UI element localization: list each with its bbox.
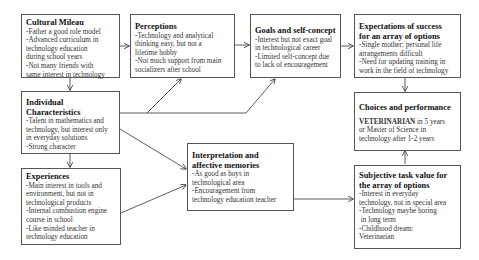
box-line: -Technology maybe boring (359, 207, 456, 216)
box-title: Subjective task value for (359, 171, 456, 181)
box-title: Characteristics (26, 108, 115, 118)
box-interpretation-memories: Interpretation and affective memories -A… (187, 143, 294, 211)
box-title: Choices and performance (359, 103, 456, 113)
box-line: lifetime hobby (135, 49, 230, 58)
box-line: -Encouragement from (192, 187, 289, 196)
box-title: Perceptions (135, 22, 230, 32)
box-line: same interest in technology (26, 71, 115, 80)
box-line: -Father a good role model (26, 28, 115, 37)
box-line: -Need for updating training in (359, 58, 456, 67)
box-line: work in the field of technology (359, 67, 456, 76)
box-line: -Internal combustion engine (26, 207, 116, 216)
highlight-veterinarian: VETERINARIAN (359, 118, 415, 126)
box-line: thinking easy, but not a (135, 40, 230, 49)
box-line: VETERINARIAN in 5 years (359, 118, 456, 127)
box-cultural-milieu: Cultural Mileau -Father a good role mode… (21, 14, 120, 78)
box-line: technological area (192, 179, 289, 188)
box-choices-performance: Choices and performance VETERINARIAN in … (354, 92, 461, 151)
box-line: -Not many friends with (26, 62, 115, 71)
box-line: during school years (26, 53, 115, 62)
box-line: in technological career (255, 44, 336, 53)
box-line: -Not much support from main (135, 57, 230, 66)
box-individual-characteristics: Individual Characteristics -Talent in ma… (21, 91, 120, 154)
box-line: or Master of Science in (359, 126, 456, 135)
box-line: -Single mother: personal life (359, 41, 456, 50)
box-title: Individual (26, 98, 115, 108)
line-rest: in 5 years (415, 118, 445, 126)
box-line: course in school (26, 216, 116, 225)
arrow-individual-to-interpretation (120, 129, 186, 169)
box-title: for an array of options (359, 32, 456, 42)
box-line: -Interest in everyday (359, 190, 456, 199)
box-title: Interpretation and (192, 151, 289, 161)
box-expectations: Expectations of success for an array of … (354, 14, 461, 78)
box-goals-self-concept: Goals and self-concept -Interest but not… (250, 14, 341, 78)
box-line: -Strong character (26, 143, 115, 152)
box-line: technology education (26, 233, 116, 242)
box-perceptions: Perceptions -Technology and analytical t… (130, 14, 235, 78)
box-experiences: Experiences -Main interest in tools and … (21, 168, 121, 245)
box-line: Veterinarian (359, 233, 456, 242)
box-line: -Childhood dream: (359, 225, 456, 234)
box-line: technology education (26, 45, 115, 54)
box-title: Experiences (26, 172, 116, 182)
box-subjective-task-value: Subjective task value for the array of o… (354, 165, 461, 249)
box-title: Cultural Mileau (26, 18, 115, 28)
arrow-individual-to-goals (120, 79, 275, 113)
box-line: -Main interest in tools and (26, 182, 116, 191)
arrow-individual-to-perceptions (147, 79, 181, 113)
box-line: to lack of encouragement (255, 61, 336, 70)
box-line: technology after 1-2 years (359, 135, 456, 144)
box-line: technology education teacher (192, 196, 289, 205)
box-line: -Talent in mathematics and (26, 117, 115, 126)
box-line: -As good as boys in (192, 170, 289, 179)
box-line: environment, but not in (26, 190, 116, 199)
box-line: arrangements difficult (359, 50, 456, 59)
box-title: Expectations of success (359, 22, 456, 32)
box-line: -Limited self-concept due (255, 53, 336, 62)
box-line: in everyday solutions (26, 134, 115, 143)
box-line: -Technology and analytical (135, 32, 230, 41)
box-line: -Like minded teacher in (26, 225, 116, 234)
box-title: affective memories (192, 161, 289, 171)
box-title: Goals and self-concept (255, 26, 336, 36)
box-line: -Advanced curriculum in (26, 36, 115, 45)
box-title: the array of options (359, 181, 456, 191)
arrow-experiences-to-interpretation (121, 185, 186, 213)
box-line: technology, but interest only (26, 126, 115, 135)
box-line: technology, not in special area (359, 199, 456, 208)
box-line: in long term (359, 216, 456, 225)
box-line: -Interest but not exact goal (255, 36, 336, 45)
box-line: technological products (26, 199, 116, 208)
box-line: socializers after school (135, 66, 230, 75)
